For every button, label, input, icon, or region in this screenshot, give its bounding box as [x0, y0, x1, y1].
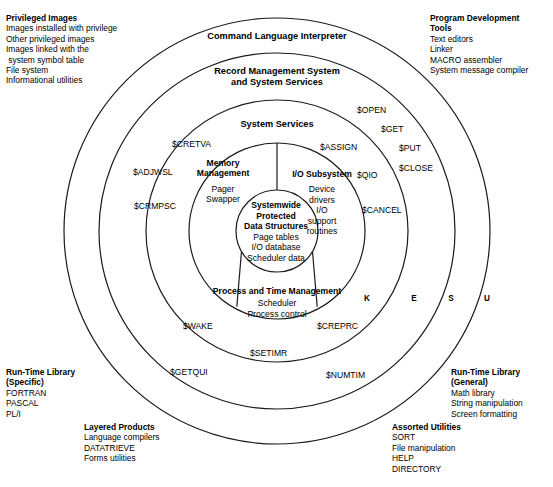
privileged-images-heading: Privileged Images	[6, 13, 117, 23]
ring-label-system-services: System Services	[240, 119, 313, 130]
assorted-utilities-item-1: File manipulation	[392, 443, 461, 453]
layered-products-item-0: Language compilers	[84, 432, 159, 442]
runtime-library-specific-item-1: PASCAL	[6, 398, 75, 408]
runtime-library-general-item-2: Screen formatting	[451, 409, 523, 419]
assorted-utilities-item-0: SORT	[392, 432, 461, 442]
mode-user: U	[484, 294, 490, 303]
io-subsystem-title: I/O Subsystem	[292, 169, 352, 179]
privileged-images-item-5: Informational utilities	[6, 75, 117, 85]
runtime-library-general-heading-line2: (General)	[451, 377, 523, 387]
service-close: $CLOSE	[399, 163, 433, 173]
service-open: $OPEN	[357, 105, 386, 115]
runtime-library-specific-heading-line1: Run-Time Library	[6, 367, 75, 377]
program-development-tools-item-0: Text editors	[430, 34, 528, 44]
privileged-images-item-3: system symbol table	[6, 55, 117, 65]
block-assorted-utilities: Assorted Utilities SORT File manipulatio…	[392, 422, 461, 474]
layered-products-item-2: Forms utilities	[84, 453, 159, 463]
mode-executive: E	[411, 294, 416, 303]
program-development-tools-heading-line1: Program Development	[430, 13, 528, 23]
diagram-canvas: Command Language Interpreter Record Mana…	[0, 0, 553, 487]
segment-memory-management: Memory Management Pager Swapper	[197, 158, 250, 205]
block-runtime-library-general: Run-Time Library (General) Math library …	[451, 367, 523, 419]
privileged-images-item-1: Other privileged images	[6, 34, 117, 44]
service-get: $GET	[381, 124, 403, 134]
core-systemwide-protected-data-structures: Systemwide Protected Data Structures Pag…	[244, 200, 308, 264]
runtime-library-general-heading-line1: Run-Time Library	[451, 367, 523, 377]
memory-management-item-pager: Pager	[197, 184, 250, 194]
segment-process-time-management: Process and Time Management Scheduler Pr…	[213, 286, 341, 319]
service-put: $PUT	[399, 143, 421, 153]
runtime-library-specific-item-2: PL/I	[6, 409, 75, 419]
mode-kernel: K	[364, 294, 370, 303]
io-subsystem-item-device: Device	[292, 184, 352, 194]
assorted-utilities-item-2: HELP	[392, 453, 461, 463]
program-development-tools-item-3: System message compiler	[430, 65, 528, 75]
service-getqui: $GETQUI	[170, 367, 208, 377]
privileged-images-item-2: Images linked with the	[6, 44, 117, 54]
process-time-item-process-control: Process control	[213, 309, 341, 319]
rms-label-line2: and System Services	[214, 77, 340, 88]
block-layered-products: Layered Products Language compilers DATA…	[84, 422, 159, 464]
core-title-line3: Data Structures	[244, 221, 308, 232]
runtime-library-general-item-0: Math library	[451, 388, 523, 398]
runtime-library-specific-heading-line2: (Specific)	[6, 377, 75, 387]
memory-management-title-line2: Management	[197, 168, 250, 178]
service-creprc: $CREPRC	[317, 321, 358, 331]
runtime-library-specific-item-0: FORTRAN	[6, 388, 75, 398]
service-adjwsl: $ADJWSL	[133, 167, 173, 177]
service-assign: $ASSIGN	[320, 142, 357, 152]
service-cretva: $CRETVA	[172, 139, 211, 149]
program-development-tools-heading-line2: Tools	[430, 23, 528, 33]
layered-products-heading: Layered Products	[84, 422, 159, 432]
process-time-management-title: Process and Time Management	[213, 286, 341, 296]
assorted-utilities-item-3: DIRECTORY	[392, 464, 461, 474]
process-time-item-scheduler: Scheduler	[213, 298, 341, 308]
service-crmpsc: $CRMPSC	[134, 201, 176, 211]
service-cancel: $CANCEL	[362, 205, 402, 215]
service-wake: $WAKE	[183, 321, 213, 331]
core-item-io-database: I/O database	[244, 242, 308, 253]
memory-management-item-swapper: Swapper	[197, 194, 250, 204]
program-development-tools-item-1: Linker	[430, 44, 528, 54]
memory-management-title-line1: Memory	[197, 158, 250, 168]
assorted-utilities-heading: Assorted Utilities	[392, 422, 461, 432]
layered-products-item-1: DATATRIEVE	[84, 443, 159, 453]
program-development-tools-item-2: MACRO assembler	[430, 55, 528, 65]
core-title-line2: Protected	[244, 211, 308, 222]
mode-supervisor: S	[448, 294, 453, 303]
service-setimr: $SETIMR	[250, 348, 287, 358]
block-privileged-images: Privileged Images Images installed with …	[6, 13, 117, 86]
core-title-line1: Systemwide	[244, 200, 308, 211]
service-numtim: $NUMTIM	[326, 370, 365, 380]
service-qio: $QIO	[357, 170, 378, 180]
ring-label-record-management-system: Record Management System and System Serv…	[214, 66, 340, 88]
core-item-scheduler-data: Scheduler data	[244, 253, 308, 264]
block-runtime-library-specific: Run-Time Library (Specific) FORTRAN PASC…	[6, 367, 75, 419]
block-program-development-tools: Program Development Tools Text editors L…	[430, 13, 528, 75]
ring-label-command-language-interpreter: Command Language Interpreter	[207, 31, 346, 42]
core-item-page-tables: Page tables	[244, 232, 308, 243]
runtime-library-general-item-1: String manipulation	[451, 398, 523, 408]
privileged-images-item-4: File system	[6, 65, 117, 75]
rms-label-line1: Record Management System	[214, 66, 340, 77]
privileged-images-item-0: Images installed with privilege	[6, 23, 117, 33]
